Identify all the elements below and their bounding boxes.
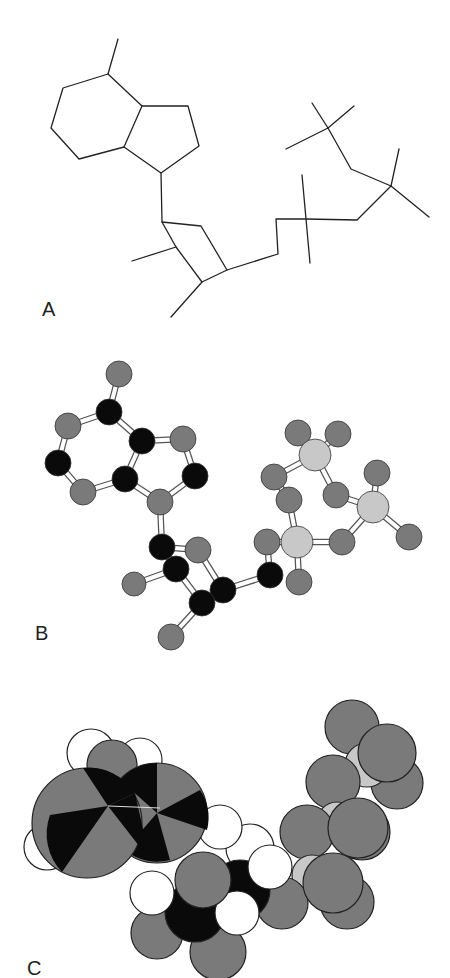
panel-c-atoms <box>24 700 423 978</box>
panel-c-space-filling <box>0 0 450 978</box>
panel-label-c: C <box>27 957 41 978</box>
